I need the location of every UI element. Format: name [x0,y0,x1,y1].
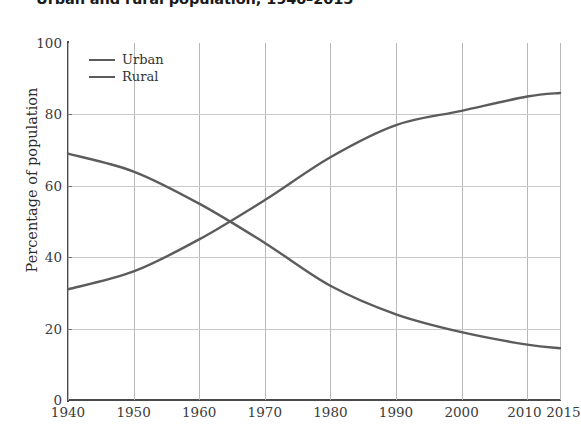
legend-label-rural: Rural [122,69,158,84]
chart-figure: Urban and rural population, 1940–2015 02… [0,0,581,447]
chart-legend: Urban Rural [89,51,209,85]
series-lines [0,0,581,447]
legend-line-swatch-rural [89,76,115,78]
legend-item-rural: Rural [89,68,209,85]
legend-label-urban: Urban [122,52,164,67]
series-line-rural [68,154,560,349]
legend-item-urban: Urban [89,51,209,68]
series-line-urban [68,93,560,289]
legend-line-swatch-urban [89,59,115,61]
